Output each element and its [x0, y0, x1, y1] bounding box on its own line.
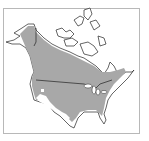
north-america-range-map [0, 0, 149, 141]
